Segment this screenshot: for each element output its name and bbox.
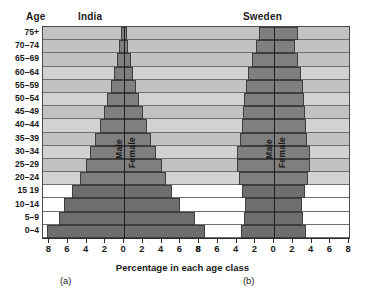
bar-male — [241, 225, 274, 238]
bar-male — [243, 106, 274, 119]
bar-male — [64, 198, 124, 211]
x-axis-tick-label: 2 — [285, 243, 299, 254]
bar-male — [256, 40, 274, 53]
female-label: Female — [277, 137, 287, 168]
age-tick-label: 75+ — [24, 27, 39, 37]
bar-male — [107, 93, 124, 106]
bar-male — [242, 185, 274, 198]
age-tick-label: 15 19 — [17, 185, 39, 195]
bar-male — [47, 225, 124, 238]
x-axis-tick-label: 8 — [191, 243, 205, 254]
bar-female — [274, 93, 304, 106]
x-axis-label: Percentage in each age class — [0, 262, 365, 273]
bar-female — [274, 106, 305, 119]
bar-female — [124, 185, 172, 198]
panel-caption-b: (b) — [243, 275, 254, 286]
axis-line — [42, 238, 198, 239]
x-axis-tick-label: 0 — [266, 243, 280, 254]
bar-female — [124, 212, 195, 225]
bar-female — [274, 119, 306, 132]
age-tick-label: 35–39 — [15, 133, 39, 143]
bar-male — [237, 159, 274, 172]
bar-female — [274, 80, 303, 93]
age-axis-title: Age — [26, 11, 46, 22]
age-tick-label: 20–24 — [15, 172, 39, 182]
age-tick-label-column: 0–45–910–1415 1920–2425–2930–3435–3940–4… — [0, 26, 39, 237]
x-axis-tick-label: 4 — [154, 243, 168, 254]
male-label: Male — [114, 139, 124, 159]
bar-female — [274, 225, 306, 238]
x-axis-tick-label: 8 — [41, 243, 55, 254]
age-tick-label: 40–44 — [15, 119, 39, 129]
x-axis-tick-label: 4 — [229, 243, 243, 254]
panel-caption-a: (a) — [60, 275, 71, 286]
age-tick-label: 50–54 — [15, 93, 39, 103]
bar-female — [274, 67, 301, 80]
population-pyramid-figure: Age India Sweden 0–45–910–1415 1920–2425… — [0, 0, 365, 297]
bar-male — [80, 172, 124, 185]
bar-female — [124, 67, 133, 80]
plot-frame: MaleFemale MaleFemale — [42, 26, 350, 239]
panel-title-sweden: Sweden — [243, 11, 282, 22]
age-tick-label: 45–49 — [15, 106, 39, 116]
bar-female — [274, 185, 305, 198]
age-tick-label: 55–59 — [15, 80, 39, 90]
bar-female — [124, 225, 204, 238]
bar-female — [124, 119, 146, 132]
x-axis-tick-label: 4 — [304, 243, 318, 254]
bar-female — [274, 27, 298, 40]
x-axis-tick-label: 4 — [79, 243, 93, 254]
bar-male — [100, 119, 124, 132]
bar-female — [124, 198, 180, 211]
x-axis-sweden: 864202468 — [198, 238, 348, 256]
age-tick-label: 65–69 — [15, 53, 39, 63]
x-axis-tick-label: 8 — [341, 243, 355, 254]
bar-male — [244, 212, 274, 225]
age-tick-label: 30–34 — [15, 146, 39, 156]
bar-male — [252, 53, 275, 66]
age-tick-label: 70–74 — [15, 40, 39, 50]
zero-axis-line — [274, 27, 275, 238]
bar-male — [259, 27, 274, 40]
age-tick-label: 25–29 — [15, 159, 39, 169]
x-axis-tick-label: 2 — [97, 243, 111, 254]
bar-female — [274, 53, 298, 66]
x-axis-tick-label: 6 — [60, 243, 74, 254]
bar-female — [124, 106, 143, 119]
bar-male — [242, 119, 274, 132]
bar-male — [244, 93, 274, 106]
bar-male — [117, 53, 124, 66]
male-label: Male — [264, 139, 274, 159]
bar-female — [274, 212, 303, 225]
bar-male — [245, 198, 274, 211]
age-tick-label: 5–9 — [25, 212, 39, 222]
x-axis-india: 864202468 — [42, 238, 198, 256]
bar-male — [86, 159, 124, 172]
bar-female — [124, 172, 166, 185]
bar-male — [114, 67, 124, 80]
age-tick-label: 10–14 — [15, 199, 39, 209]
bar-male — [104, 106, 125, 119]
x-axis-tick-label: 6 — [210, 243, 224, 254]
age-tick-label: 0–4 — [25, 225, 39, 235]
bar-male — [246, 80, 274, 93]
pyramid-panel-sweden: MaleFemale — [199, 27, 349, 238]
bar-male — [59, 212, 125, 225]
age-tick-label: 60–64 — [15, 67, 39, 77]
x-axis-tick-label: 6 — [172, 243, 186, 254]
panel-title-india: India — [78, 11, 102, 22]
bar-male — [239, 172, 274, 185]
bar-male — [72, 185, 124, 198]
bar-female — [274, 198, 302, 211]
female-label: Female — [127, 137, 137, 168]
bar-female — [124, 93, 139, 106]
x-axis-tick-label: 0 — [116, 243, 130, 254]
pyramid-panel-india: MaleFemale — [43, 27, 199, 238]
zero-axis-line — [124, 27, 125, 238]
x-axis-tick-label: 2 — [135, 243, 149, 254]
bar-female — [124, 80, 136, 93]
x-axis-tick-label: 6 — [322, 243, 336, 254]
bar-female — [274, 40, 295, 53]
x-axis-tick-label: 2 — [247, 243, 261, 254]
bar-male — [111, 80, 124, 93]
